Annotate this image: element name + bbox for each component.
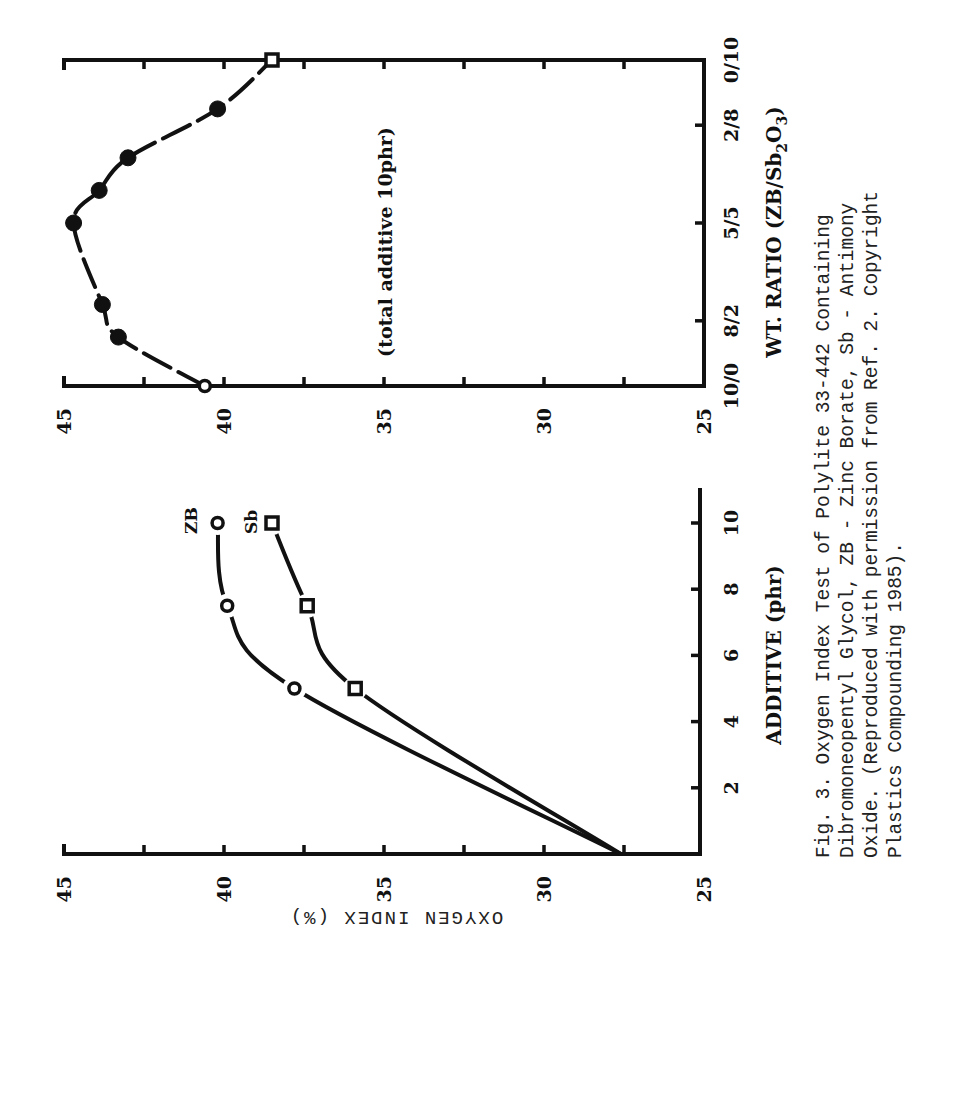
additive-chart-markers	[206, 511, 368, 701]
ratio-tick-label-10-0: 10/0	[720, 363, 742, 410]
data-point-4-6	[91, 182, 107, 198]
data-point-zb-7.5	[222, 600, 233, 611]
additive-chart-curves	[218, 523, 621, 854]
additive-tick-label-10: 10	[720, 510, 742, 536]
figure: 454035302510/08/25/52/80/10 (total addit…	[0, 0, 959, 1107]
ratio-tick-label-8-2: 8/2	[720, 304, 742, 337]
data-point-3-7	[120, 150, 136, 166]
data-point-0-10	[266, 54, 278, 66]
oi-tick-label-40: 40	[213, 408, 235, 434]
additive-tick-label-4: 4	[720, 715, 742, 728]
data-point-zb-5	[289, 683, 300, 694]
oi-tick-label-25: 25	[693, 876, 715, 902]
ratio-tick-label-5-5: 5/5	[720, 206, 742, 239]
series-label-zb: ZB	[181, 507, 201, 534]
additive-tick-label-8: 8	[720, 583, 742, 596]
data-point-sb-7.5	[301, 600, 313, 612]
data-point-1-5-8-5	[210, 101, 226, 117]
data-point-zb-10	[212, 518, 223, 529]
additive-chart-xlabel: ADDITIVE (phr)	[762, 565, 786, 746]
ratio-chart-markers	[66, 54, 278, 392]
ratio-tick-label-2-8: 2/8	[720, 109, 742, 142]
additive-chart: 4540353025246810 ZB Sb ADDITIVE (phr) OX…	[53, 490, 786, 928]
oi-tick-label-45: 45	[53, 876, 75, 902]
oi-tick-label-35: 35	[373, 408, 395, 434]
additive-tick-label-6: 6	[720, 649, 742, 662]
data-point-7-5-2-5	[94, 297, 110, 313]
ratio-chart-curve	[74, 60, 272, 386]
caption-line-1: Fig. 3. Oxygen Index Test of Polylite 33…	[813, 214, 835, 858]
data-point-8-5-1-5	[110, 329, 126, 345]
figure-caption: Fig. 3. Oxygen Index Test of Polylite 33…	[813, 191, 907, 858]
caption-line-4: Plastics Compounding 1985).	[885, 542, 907, 858]
data-point-sb-10	[266, 517, 278, 529]
oi-tick-label-45: 45	[53, 408, 75, 434]
additive-chart-tick-labels: 4540353025246810	[53, 510, 742, 903]
data-point-10-0	[199, 381, 210, 392]
ratio-curve-line	[74, 60, 272, 386]
total-additive-annotation: (total additive 10phr)	[374, 127, 396, 357]
ratio-chart-xlabel: WT. RATIO (ZB/Sb2O3)	[762, 106, 790, 358]
oi-tick-label-40: 40	[213, 876, 235, 902]
additive-chart-ticks	[144, 523, 700, 854]
ratio-tick-label-0-10: 0/10	[720, 37, 742, 84]
oi-tick-label-25: 25	[693, 408, 715, 434]
oi-tick-label-35: 35	[373, 876, 395, 902]
oxygen-index-ylabel: OXYGEN INDEX (%)	[289, 906, 503, 928]
data-point-5-5	[66, 215, 82, 231]
oi-tick-label-30: 30	[533, 876, 555, 902]
oi-tick-label-30: 30	[533, 408, 555, 434]
ratio-chart: 454035302510/08/25/52/80/10 (total addit…	[53, 37, 790, 435]
ratio-chart-tick-labels: 454035302510/08/25/52/80/10	[53, 37, 742, 435]
series-curve-zb	[218, 523, 621, 854]
data-point-sb-5	[349, 683, 361, 695]
caption-line-2: Dibromoneopentyl Glycol, ZB - Zinc Borat…	[837, 202, 859, 858]
series-label-sb: Sb	[241, 510, 261, 534]
additive-tick-label-2: 2	[720, 781, 742, 794]
series-curve-sb	[272, 523, 621, 854]
caption-line-3: Oxide. (Reproduced with permission from …	[861, 191, 883, 858]
ratio-chart-ticks	[144, 60, 704, 386]
